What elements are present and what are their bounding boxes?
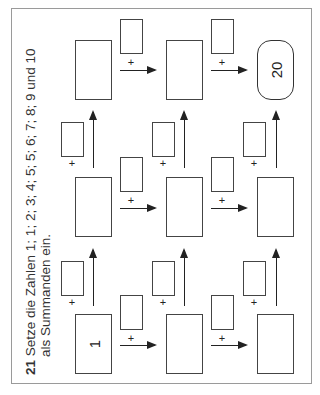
plus-sign: + xyxy=(249,158,259,168)
plus-sign: + xyxy=(67,158,77,168)
answer-box[interactable] xyxy=(166,40,203,100)
addend-box[interactable] xyxy=(211,157,234,192)
addend-box[interactable] xyxy=(120,157,143,192)
arrow-right-icon xyxy=(120,208,155,209)
answer-box[interactable] xyxy=(257,177,294,237)
addend-box[interactable] xyxy=(61,122,84,157)
task-line-2: als Summanden ein. xyxy=(38,48,53,375)
addend-box[interactable] xyxy=(120,19,143,54)
plus-sign: + xyxy=(126,57,136,67)
arrow-right-icon xyxy=(120,70,155,71)
arrow-up-icon xyxy=(93,112,94,168)
addend-box[interactable] xyxy=(152,122,175,157)
arrow-up-icon xyxy=(276,112,277,168)
goal-box: 20 xyxy=(257,40,294,100)
arrow-right-icon xyxy=(211,70,246,71)
addend-box[interactable] xyxy=(243,122,266,157)
answer-box[interactable] xyxy=(75,177,112,237)
plus-sign: + xyxy=(217,57,227,67)
arrow-right-icon xyxy=(211,345,246,346)
answer-box[interactable] xyxy=(166,314,203,374)
addend-box[interactable] xyxy=(211,295,234,330)
arrow-up-icon xyxy=(184,250,185,306)
goal-value: 20 xyxy=(267,62,284,79)
answer-box[interactable] xyxy=(257,314,294,374)
start-value: 1 xyxy=(85,340,102,348)
arrow-up-icon xyxy=(184,112,185,168)
plus-sign: + xyxy=(217,195,227,205)
plus-sign: + xyxy=(126,333,136,343)
task-instruction: 21 Setze die Zahlen 1; 1; 2; 3; 4; 5; 5;… xyxy=(23,48,53,375)
plus-sign: + xyxy=(217,333,227,343)
addend-box[interactable] xyxy=(61,261,84,296)
arrow-right-icon xyxy=(211,208,246,209)
plus-sign: + xyxy=(249,297,259,307)
addend-box[interactable] xyxy=(243,261,266,296)
answer-box[interactable] xyxy=(166,177,203,237)
task-number: 21 xyxy=(23,360,38,375)
answer-box[interactable] xyxy=(75,40,112,100)
addend-box[interactable] xyxy=(120,295,143,330)
addend-box[interactable] xyxy=(152,261,175,296)
addend-box[interactable] xyxy=(211,19,234,54)
task-line-1: Setze die Zahlen 1; 1; 2; 3; 4; 5; 5; 6;… xyxy=(23,48,38,356)
plus-sign: + xyxy=(158,297,168,307)
start-box: 1 xyxy=(75,314,112,374)
arrow-up-icon xyxy=(93,250,94,306)
arrow-right-icon xyxy=(120,345,155,346)
plus-sign: + xyxy=(158,158,168,168)
plus-sign: + xyxy=(67,297,77,307)
plus-sign: + xyxy=(126,195,136,205)
arrow-up-icon xyxy=(276,250,277,306)
